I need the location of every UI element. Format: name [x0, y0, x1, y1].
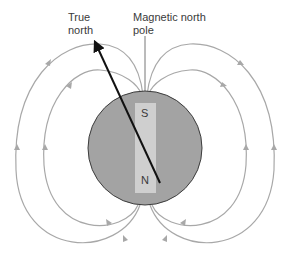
magnetic-north-pole-label: Magnetic north pole — [133, 11, 206, 37]
magnet-south-label: S — [141, 107, 148, 119]
diagram-canvas: S N — [0, 0, 283, 263]
magnet-north-label: N — [141, 174, 149, 186]
true-north-label: True north — [68, 11, 93, 37]
magnetic-field-diagram: S N True north Magnetic north pole — [0, 0, 283, 263]
